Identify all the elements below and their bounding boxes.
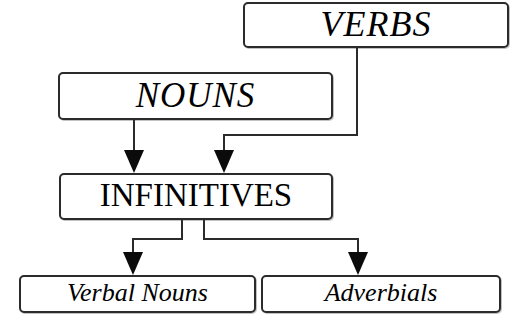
node-verbal-nouns-label: Verbal Nouns <box>67 280 208 306</box>
arrowhead-verbs-to-infinitives-icon <box>214 150 234 173</box>
node-nouns[interactable]: NOUNS <box>58 72 333 120</box>
diagram-canvas: VERBS NOUNS INFINITIVES Verbal Nouns Adv… <box>0 0 521 327</box>
edge-verbs-infinitives-segment-horizontal <box>223 134 358 136</box>
edge-infinitives-adverbials-segment-vertical-start <box>203 219 205 240</box>
node-adverbials-label: Adverbials <box>325 280 438 306</box>
node-adverbials[interactable]: Adverbials <box>261 275 501 313</box>
edge-infinitives-verbalnouns-segment-horizontal <box>132 238 183 240</box>
edge-verbs-infinitives-segment-vertical-start <box>356 47 358 136</box>
node-infinitives-label: INFINITIVES <box>100 179 292 212</box>
arrowhead-nouns-to-infinitives-icon <box>124 150 144 173</box>
node-verbs[interactable]: VERBS <box>243 2 509 48</box>
arrowhead-infinitives-to-verbalnouns-icon <box>123 252 143 275</box>
edge-infinitives-adverbials-segment-horizontal <box>203 238 359 240</box>
node-verbs-label: VERBS <box>321 6 432 42</box>
edge-infinitives-verbalnouns-segment-vertical-start <box>181 219 183 240</box>
node-infinitives[interactable]: INFINITIVES <box>59 173 333 220</box>
node-nouns-label: NOUNS <box>136 78 256 113</box>
node-verbal-nouns[interactable]: Verbal Nouns <box>19 275 256 313</box>
arrowhead-infinitives-to-adverbials-icon <box>348 252 368 275</box>
